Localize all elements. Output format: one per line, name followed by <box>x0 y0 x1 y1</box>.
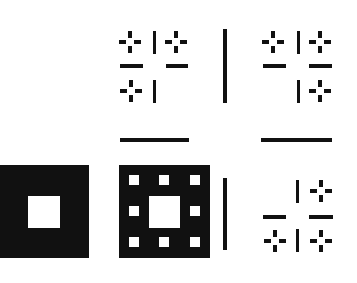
carpet-hole <box>129 175 139 185</box>
cross-arm-bottom <box>319 245 323 252</box>
fractal-diagram: Sierpinski carpet construction stages <box>0 0 357 283</box>
carpet-hole <box>129 206 139 216</box>
cross-arm-top <box>273 230 277 237</box>
cross-arm-top <box>318 80 322 87</box>
cross-arm-top <box>271 31 275 38</box>
divider-vertical-top <box>223 29 227 103</box>
figure-title: Sierpinski carpet construction stages <box>0 0 1 1</box>
cross-arm-top <box>174 31 178 38</box>
cross-arm-right <box>279 239 286 243</box>
carpet-hole <box>190 175 200 185</box>
cross-arm-bottom <box>129 95 133 102</box>
cross-arm-right <box>325 189 332 193</box>
motif-vertical-bar <box>296 229 299 252</box>
motif-vertical-bar <box>153 31 156 54</box>
carpet-hole <box>190 206 200 216</box>
carpet-hole <box>159 175 169 185</box>
cross-arm-bottom <box>174 46 178 53</box>
cross-arm-right <box>134 40 141 44</box>
cross-arm-top <box>319 230 323 237</box>
cross-arm-left <box>309 40 316 44</box>
cross-arm-right <box>325 239 332 243</box>
motif-horizontal-bar <box>263 64 286 68</box>
divider-vertical-bottom <box>223 178 227 250</box>
cross-arm-bottom <box>319 195 323 202</box>
carpet-hole <box>190 237 200 247</box>
cross-arm-left <box>264 239 271 243</box>
carpet-hole <box>28 196 60 228</box>
cross-arm-bottom <box>271 46 275 53</box>
motif-horizontal-bar <box>166 64 188 68</box>
motif-horizontal-bar <box>263 215 286 219</box>
cross-arm-left <box>262 40 269 44</box>
motif-vertical-bar <box>153 80 156 103</box>
cross-arm-left <box>165 40 172 44</box>
carpet-hole <box>149 196 180 228</box>
motif-horizontal-bar <box>309 215 333 219</box>
cross-arm-bottom <box>318 46 322 53</box>
stage-2-square <box>119 165 210 258</box>
carpet-hole <box>159 237 169 247</box>
cross-arm-top <box>319 180 323 187</box>
cross-arm-left <box>310 239 317 243</box>
cross-arm-right <box>324 40 331 44</box>
cross-arm-right <box>324 89 331 93</box>
motif-vertical-bar <box>296 180 299 203</box>
cross-arm-top <box>318 31 322 38</box>
cross-arm-bottom <box>128 46 132 53</box>
motif-vertical-bar <box>297 31 300 54</box>
cross-arm-left <box>120 89 127 93</box>
cross-arm-left <box>309 89 316 93</box>
cross-arm-right <box>135 89 142 93</box>
cross-arm-left <box>310 189 317 193</box>
motif-horizontal-bar <box>120 64 143 68</box>
cross-arm-top <box>129 80 133 87</box>
divider-horizontal-left <box>120 138 189 142</box>
cross-arm-bottom <box>318 95 322 102</box>
cross-arm-right <box>277 40 284 44</box>
motif-horizontal-bar <box>309 64 332 68</box>
carpet-hole <box>129 237 139 247</box>
cross-arm-top <box>128 31 132 38</box>
stage-1-square <box>0 165 89 258</box>
cross-arm-bottom <box>273 245 277 252</box>
cross-arm-right <box>180 40 187 44</box>
divider-horizontal-right <box>261 138 332 142</box>
cross-arm-left <box>119 40 126 44</box>
motif-vertical-bar <box>297 80 300 103</box>
